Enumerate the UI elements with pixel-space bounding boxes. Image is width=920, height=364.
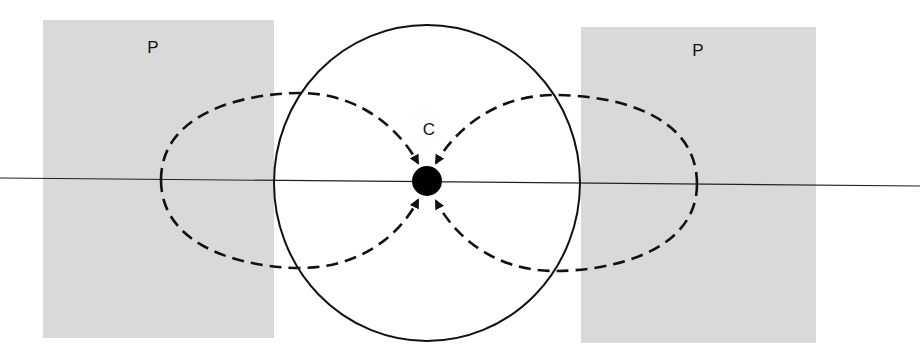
diagram-canvas: P P C bbox=[0, 0, 920, 364]
left-region-label: P bbox=[147, 38, 158, 57]
center-label: C bbox=[423, 120, 435, 139]
right-region-label: P bbox=[692, 41, 703, 60]
center-dot-c bbox=[412, 166, 442, 196]
